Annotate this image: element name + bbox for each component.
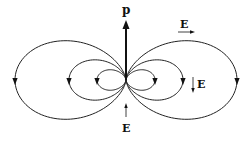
field-label-bottom: E — [122, 123, 130, 134]
field-arrowhead-right-icon — [190, 30, 195, 33]
arrowhead-down-icon — [152, 78, 157, 85]
field-arrowhead-up-icon — [124, 103, 127, 108]
arrowhead-down-icon — [12, 78, 17, 85]
arrowhead-down-icon — [234, 78, 239, 85]
dipole-arrowhead-icon — [123, 20, 130, 29]
field-line — [97, 70, 126, 91]
arrowhead-down-icon — [94, 78, 99, 85]
arrowhead-down-icon — [66, 78, 71, 85]
field-label-right: E — [197, 79, 205, 90]
dipole-field-diagram — [0, 0, 252, 142]
field-line — [126, 70, 155, 91]
dipole-label: p — [122, 4, 130, 16]
arrowhead-down-icon — [180, 78, 185, 85]
field-arrowhead-down-icon — [191, 88, 194, 93]
field-label-top-right: E — [180, 19, 188, 30]
